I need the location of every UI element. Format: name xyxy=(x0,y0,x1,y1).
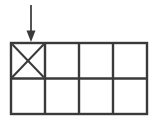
cell-r1c2 xyxy=(45,43,79,79)
cell-r2c2 xyxy=(45,79,79,115)
cell-r2c4 xyxy=(113,79,147,115)
cell-r1c1 xyxy=(11,43,45,79)
arrow-head-icon xyxy=(27,31,36,43)
diagram-canvas xyxy=(0,0,158,122)
grid-diagram-svg xyxy=(0,0,158,122)
cell-r2c1 xyxy=(11,79,45,115)
down-arrow-pointer xyxy=(27,5,36,42)
cell-r2c3 xyxy=(79,79,113,115)
cell-r1c3 xyxy=(79,43,113,79)
cell-r1c4 xyxy=(113,43,147,79)
